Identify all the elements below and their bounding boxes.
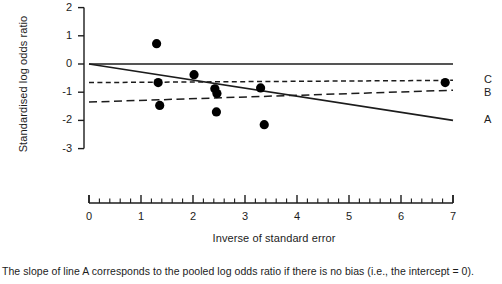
x-axis-tick-label: 2 — [183, 210, 203, 222]
x-axis-label: Inverse of standard error — [89, 232, 459, 244]
fitted-line-C — [89, 80, 453, 82]
x-axis-tick-label: 7 — [443, 210, 463, 222]
line-label-C: C — [484, 73, 492, 85]
axes-group — [78, 8, 453, 203]
data-point — [154, 78, 163, 87]
funnel-plot-figure: Standardised log odds ratio Inverse of s… — [0, 0, 502, 284]
x-axis-tick-label: 6 — [391, 210, 411, 222]
data-point — [189, 70, 198, 79]
y-axis-tick-label: 1 — [50, 29, 72, 41]
x-axis-tick-label: 3 — [235, 210, 255, 222]
data-point — [260, 120, 269, 129]
line-label-B: B — [484, 86, 491, 98]
series-group — [89, 39, 453, 129]
y-axis-tick-label: -2 — [50, 113, 72, 125]
fitted-line-A — [89, 64, 453, 120]
data-point — [155, 101, 164, 110]
data-point — [441, 78, 450, 87]
data-point — [212, 107, 221, 116]
y-axis-label: Standardised log odds ratio — [17, 0, 29, 169]
y-axis-tick-label: -3 — [50, 142, 72, 154]
x-axis-tick-label: 1 — [131, 210, 151, 222]
x-axis-tick-label: 4 — [287, 210, 307, 222]
data-point — [212, 89, 221, 98]
y-axis-tick-label: 2 — [50, 1, 72, 13]
y-axis-tick-label: -1 — [50, 85, 72, 97]
y-axis-tick-label: 0 — [50, 57, 72, 69]
x-axis-tick-label: 0 — [79, 210, 99, 222]
data-point — [256, 83, 265, 92]
data-point — [152, 39, 161, 48]
line-label-A: A — [484, 113, 491, 125]
x-axis-tick-label: 5 — [339, 210, 359, 222]
figure-caption: The slope of line A corresponds to the p… — [2, 264, 500, 278]
